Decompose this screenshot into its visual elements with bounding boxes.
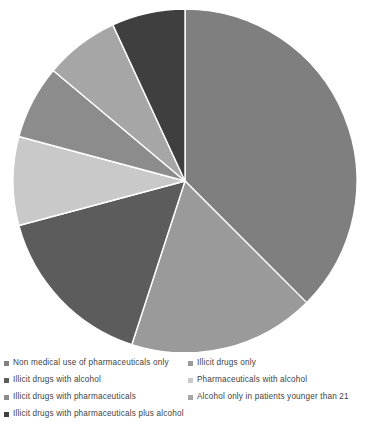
legend-swatch-2 bbox=[4, 378, 9, 383]
legend-label-0: Non medical use of pharmaceuticals only bbox=[13, 357, 169, 368]
pie-chart-svg bbox=[0, 0, 382, 352]
legend-swatch-1 bbox=[188, 361, 193, 366]
legend-swatch-4 bbox=[4, 395, 9, 400]
legend-swatch-5 bbox=[188, 395, 193, 400]
legend-label-5: Alcohol only in patients younger than 21 bbox=[197, 391, 349, 402]
legend-item-4[interactable]: Illicit drugs with pharmaceuticals bbox=[4, 391, 188, 402]
chart-legend: Non medical use of pharmaceuticals only … bbox=[0, 357, 382, 431]
legend-label-6: Illicit drugs with pharmaceuticals plus … bbox=[13, 408, 184, 419]
legend-item-6[interactable]: Illicit drugs with pharmaceuticals plus … bbox=[4, 408, 188, 419]
legend-item-0[interactable]: Non medical use of pharmaceuticals only bbox=[4, 357, 188, 368]
legend-item-2[interactable]: Illicit drugs with alcohol bbox=[4, 374, 188, 385]
legend-label-4: Illicit drugs with pharmaceuticals bbox=[13, 391, 136, 402]
legend-label-1: Illicit drugs only bbox=[197, 357, 256, 368]
legend-swatch-0 bbox=[4, 361, 9, 366]
pie-slice-group bbox=[13, 9, 357, 352]
legend-item-3[interactable]: Pharmaceuticals with alcohol bbox=[188, 374, 382, 385]
legend-swatch-6 bbox=[4, 412, 9, 417]
legend-swatch-3 bbox=[188, 378, 193, 383]
legend-label-2: Illicit drugs with alcohol bbox=[13, 374, 101, 385]
legend-item-1[interactable]: Illicit drugs only bbox=[188, 357, 382, 368]
pie-chart-area bbox=[0, 0, 382, 352]
legend-item-5[interactable]: Alcohol only in patients younger than 21 bbox=[188, 391, 382, 402]
legend-label-3: Pharmaceuticals with alcohol bbox=[197, 374, 307, 385]
